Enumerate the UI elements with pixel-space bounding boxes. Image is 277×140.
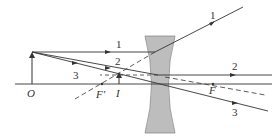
focal-left-label: F' xyxy=(95,88,106,100)
image-label: I xyxy=(115,87,121,99)
ray-1-right-label: 1 xyxy=(210,9,216,21)
ray-3-arrow-icon xyxy=(72,61,78,65)
ray-1-out-arrow-icon xyxy=(209,21,215,26)
ray-3-left-label: 3 xyxy=(73,69,79,81)
ray-1-left-label: 1 xyxy=(116,38,122,50)
ray-3-right-label: 3 xyxy=(232,106,238,118)
ray-2-out-arrow-icon xyxy=(230,73,236,77)
ray-1-refracted xyxy=(155,7,243,52)
concave-lens xyxy=(145,36,175,133)
focal-point-left xyxy=(101,83,103,85)
ray-2-right-label: 2 xyxy=(232,60,238,72)
ray-2-incident xyxy=(32,52,158,75)
ray-2-left-label: 2 xyxy=(115,55,121,67)
object-label: O xyxy=(27,87,35,99)
ray-3-out-arrow-icon xyxy=(232,101,238,105)
ray-diagram: 1 1 2 2 3 3 O I F' F xyxy=(0,0,277,140)
ray-3-incident xyxy=(32,52,160,84)
focal-right-label: F xyxy=(208,84,216,96)
ray-1-arrow-icon xyxy=(105,50,111,54)
